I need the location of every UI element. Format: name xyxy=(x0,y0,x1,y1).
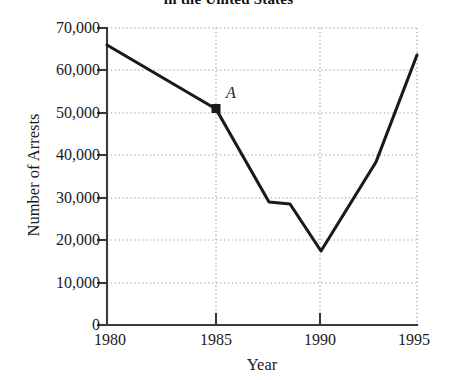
point-a-marker xyxy=(212,104,221,113)
y-tick-label: 70,000 xyxy=(16,20,100,36)
y-tick-label: 40,000 xyxy=(16,147,100,163)
vertical-gridlines xyxy=(216,28,417,325)
y-tick-label: 10,000 xyxy=(16,275,100,291)
y-tick-label: 20,000 xyxy=(16,232,100,248)
x-axis-tick-labels: 1980 1985 1990 1995 xyxy=(0,331,457,357)
x-tick-label: 1985 xyxy=(176,331,256,349)
x-axis-ticks xyxy=(216,313,320,325)
chart-figure: in the United States Number of Arrests Y… xyxy=(0,0,457,380)
x-tick-label: 1980 xyxy=(70,331,150,349)
x-axis-title: Year xyxy=(107,355,417,375)
y-tick-label: 30,000 xyxy=(16,190,100,206)
y-axis-tick-labels: 70,000 60,000 50,000 40,000 30,000 20,00… xyxy=(8,0,100,380)
arrests-line-series xyxy=(107,45,417,251)
y-tick-label: 60,000 xyxy=(16,62,100,78)
x-tick-label: 1990 xyxy=(280,331,360,349)
y-tick-label: 50,000 xyxy=(16,105,100,121)
point-a-label: A xyxy=(226,84,236,102)
horizontal-gridlines xyxy=(107,28,417,283)
x-tick-label: 1995 xyxy=(374,331,454,349)
